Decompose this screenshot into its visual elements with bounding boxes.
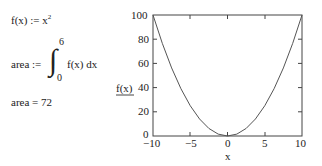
x-tick-neg10: −10 <box>143 137 160 149</box>
y-tick-80: 80 <box>138 33 149 45</box>
plot-canvas <box>0 0 322 166</box>
y-tick-60: 60 <box>138 57 149 69</box>
x-tick-10: 10 <box>295 137 306 149</box>
x-tick-5: 5 <box>262 137 268 149</box>
y-tick-100: 100 <box>131 9 148 21</box>
y-tick-20: 20 <box>138 105 149 117</box>
x-axis-label: x <box>225 150 231 162</box>
y-axis-label: f(x) <box>116 82 133 94</box>
plot-curve <box>153 15 302 136</box>
x-tick-0: 0 <box>225 137 231 149</box>
y-tick-40: 40 <box>138 81 149 93</box>
x-tick-neg5: −5 <box>185 137 197 149</box>
